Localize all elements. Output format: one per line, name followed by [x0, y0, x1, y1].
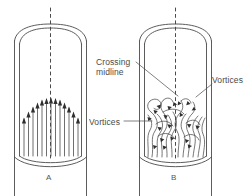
laminar-arrow	[31, 107, 35, 157]
panel-letter-b: B	[171, 173, 176, 182]
tube-b-dome-outer	[140, 24, 212, 41]
laminar-arrow	[62, 103, 66, 157]
laminar-arrow	[71, 112, 75, 157]
panel-a-laminar-arrows	[22, 98, 80, 157]
laminar-arrow	[35, 103, 39, 157]
flow-comparison-figure	[0, 0, 251, 196]
label-vortices-left: Vortices	[89, 117, 120, 127]
tube-a-dome-outer	[15, 24, 87, 41]
leader-line-vortices-right	[196, 84, 212, 97]
laminar-arrow	[22, 118, 26, 157]
laminar-arrow	[49, 98, 53, 157]
laminar-arrow	[44, 98, 48, 156]
laminar-arrow	[76, 118, 80, 157]
panel-letter-a: A	[46, 173, 51, 182]
laminar-arrow	[26, 112, 30, 157]
laminar-arrow	[40, 100, 44, 157]
laminar-arrow	[67, 107, 71, 157]
leader-line-crossing-midline	[136, 62, 178, 96]
laminar-arrow	[53, 98, 57, 156]
laminar-arrow	[58, 100, 62, 157]
panel-b-arrowheads	[148, 101, 201, 150]
label-crossing-midline: Crossing midline	[96, 57, 130, 77]
label-vortices-right: Vortices	[212, 75, 243, 85]
